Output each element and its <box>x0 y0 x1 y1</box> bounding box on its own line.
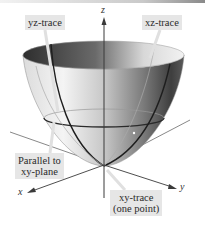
xz-trace-text: xz-trace <box>145 17 179 28</box>
parallel-to-xy-plane-label: Parallel to xy-plane <box>15 153 64 179</box>
xy-trace-label: xy-trace (one point) <box>110 190 162 216</box>
z-axis-arrow-icon <box>102 17 107 25</box>
surface-highlight <box>133 132 135 134</box>
x-axis-arrow-icon <box>27 188 36 194</box>
xy-trace-line1: xy-trace <box>113 192 159 203</box>
xz-trace-label: xz-trace <box>142 15 182 30</box>
y-axis-arrow-icon <box>168 184 177 189</box>
parallel-line1: Parallel to <box>18 155 61 166</box>
yz-trace-text: yz-trace <box>28 17 62 28</box>
xy-trace-line2: (one point) <box>113 203 159 214</box>
xy-trace-leader <box>107 170 125 190</box>
z-axis-label: z <box>101 4 105 15</box>
paraboloid-figure <box>0 0 205 226</box>
y-axis-label: y <box>180 181 184 192</box>
yz-trace-label: yz-trace <box>25 15 65 30</box>
x-axis-label: x <box>18 186 22 197</box>
parallel-line2: xy-plane <box>18 166 61 177</box>
